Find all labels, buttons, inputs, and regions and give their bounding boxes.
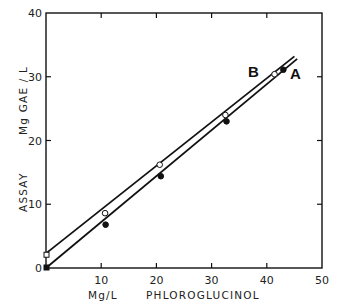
plot-frame <box>46 13 322 268</box>
y-tick-label: 40 <box>28 7 42 20</box>
fit-lines <box>46 56 297 268</box>
y-tick-label: 30 <box>28 71 42 84</box>
x-axis-title: PHLOROGLUCINOL <box>146 289 260 301</box>
plot-border <box>46 13 322 268</box>
data-point-a <box>281 67 287 73</box>
data-point-a <box>158 173 164 179</box>
y-tick-label: 0 <box>35 262 42 275</box>
data-point-square-a <box>44 265 49 270</box>
y-axis-unit: Mg GAE / L <box>17 66 29 135</box>
data-point-b <box>223 112 229 118</box>
chart-canvas: 1020304050010203040 B A Mg/L PHLOROGLUCI… <box>0 0 337 305</box>
data-point-square-b <box>44 252 49 257</box>
x-axis-unit: Mg/L <box>88 289 118 301</box>
data-point-a <box>224 119 230 125</box>
fit-line-b <box>46 56 294 253</box>
x-tick-label: 30 <box>205 274 219 287</box>
series-label-b: B <box>248 63 259 80</box>
y-tick-label: 10 <box>28 198 42 211</box>
x-tick-label: 10 <box>94 274 108 287</box>
y-tick-label: 20 <box>28 135 42 148</box>
x-tick-label: 20 <box>149 274 163 287</box>
x-tick-label: 50 <box>315 274 329 287</box>
x-tick-label: 40 <box>260 274 274 287</box>
data-point-b <box>102 210 108 216</box>
series-label-a: A <box>290 65 301 82</box>
data-point-a <box>103 222 109 228</box>
data-point-b <box>157 162 163 168</box>
data-point-b <box>272 71 278 77</box>
y-axis-title: ASSAY <box>17 173 29 213</box>
fit-line-a <box>46 59 297 268</box>
